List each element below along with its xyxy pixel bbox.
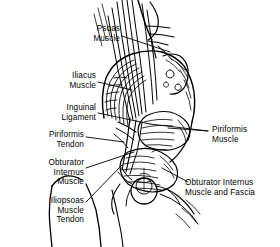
label-obturator-internus-muscle-and-fascia: Obturator Internus Muscle and Fascia — [185, 178, 280, 197]
label-iliacus-muscle: Iliacus Muscle — [44, 71, 96, 90]
label-piriformis-muscle: Piriformis Muscle — [212, 125, 278, 144]
label-piriformis-tendon: Piriformis Tendon — [14, 130, 84, 149]
label-inguinal-ligament: Inguinal Ligament — [22, 103, 96, 122]
anatomical-figure: Psoas Muscle Iliacus Muscle Inguinal Lig… — [0, 0, 280, 247]
label-obturator-internus-muscle: Obturator Internus Muscle — [14, 158, 84, 187]
label-psoas-muscle: Psoas Muscle — [68, 24, 120, 43]
label-iliopsoas-muscle-tendon: Iliopsoas Muscle Tendon — [14, 196, 84, 225]
